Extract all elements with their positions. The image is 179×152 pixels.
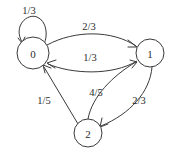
node-1[interactable]: 1 — [136, 39, 164, 67]
edge-label-0-to-1: 2/3 — [82, 21, 95, 32]
markov-chain-diagram: 0 1 2 1/3 2/3 1/3 1/5 4/5 2/3 — [0, 0, 179, 152]
node-2[interactable]: 2 — [74, 119, 102, 147]
node-0[interactable]: 0 — [17, 37, 49, 69]
node-2-label: 2 — [85, 128, 91, 140]
edge-0-to-1-path — [47, 34, 136, 46]
edge-label-2-to-0: 1/5 — [37, 95, 50, 106]
edge-0-to-1-arrowhead — [128, 40, 137, 47]
node-1-label: 1 — [147, 48, 153, 60]
edge-label-2-to-1: 4/5 — [89, 87, 102, 98]
edge-0-to-1 — [47, 34, 137, 47]
node-0-label: 0 — [30, 48, 36, 60]
graph-canvas: 0 1 2 1/3 2/3 1/3 1/5 4/5 2/3 — [0, 0, 179, 152]
edge-label-1-to-0: 1/3 — [83, 52, 96, 63]
edge-label-0-to-0: 1/3 — [22, 5, 35, 16]
edge-label-1-to-2: 2/3 — [132, 95, 145, 106]
